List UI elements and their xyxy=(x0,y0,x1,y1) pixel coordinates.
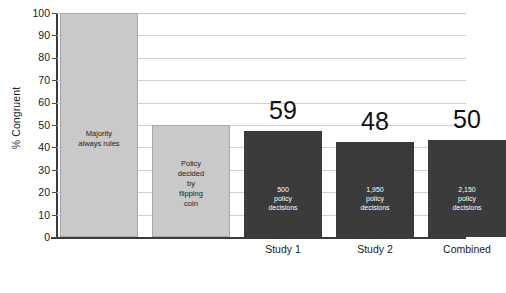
cat-label-study-2: Study 2 xyxy=(336,243,414,255)
tickmark-100 xyxy=(52,13,57,14)
y-tick-100: 100 xyxy=(22,8,50,19)
bar-coin-label-line3: by xyxy=(153,179,229,189)
y-tick-50: 50 xyxy=(22,120,50,131)
y-axis-title: % Congruent xyxy=(10,58,22,178)
tickmark-10 xyxy=(52,215,57,216)
y-tick-90: 90 xyxy=(22,30,50,41)
y-tick-0: 0 xyxy=(22,232,50,243)
tickmark-90 xyxy=(52,35,57,36)
bar-combined-label-line2: policy xyxy=(428,194,506,203)
tickmark-30 xyxy=(52,170,57,171)
cat-label-study-1: Study 1 xyxy=(244,243,322,255)
y-tick-10: 10 xyxy=(22,210,50,221)
bar-combined-value: 50 xyxy=(428,107,506,132)
tickmark-70 xyxy=(52,80,57,81)
tickmark-60 xyxy=(52,103,57,104)
cat-label-combined: Combined xyxy=(428,243,506,255)
bar-combined[interactable]: 50 2,150 policy decisions xyxy=(428,140,506,237)
y-tick-60: 60 xyxy=(22,97,50,108)
y-tick-80: 80 xyxy=(22,52,50,63)
bar-majority-always-rules[interactable]: Majority always rules xyxy=(60,13,138,237)
bar-combined-label-line3: decisions xyxy=(428,203,506,212)
bar-study-2-label-line1: 1,950 xyxy=(336,185,414,194)
bar-study-2[interactable]: 48 1,950 policy decisions xyxy=(336,142,414,237)
bar-study-1-label-line1: 500 xyxy=(244,185,322,194)
tickmark-0 xyxy=(52,237,57,238)
bar-majority-label-line2: always rules xyxy=(61,139,137,149)
tickmark-40 xyxy=(52,147,57,148)
tickmark-80 xyxy=(52,58,57,59)
bar-study-2-label-line3: decisions xyxy=(336,203,414,212)
tickmark-50 xyxy=(52,125,57,126)
bar-study-2-label-line2: policy xyxy=(336,194,414,203)
y-tick-70: 70 xyxy=(22,75,50,86)
bar-study-2-value: 48 xyxy=(336,109,414,134)
bar-majority-label-line1: Majority xyxy=(61,129,137,139)
bar-study-1-label-line2: policy xyxy=(244,194,322,203)
y-axis-tick-labels: 100 90 80 70 60 50 40 30 20 10 0 xyxy=(22,0,50,293)
x-axis-line xyxy=(51,237,466,239)
y-tick-30: 30 xyxy=(22,165,50,176)
bar-study-1-label-line3: decisions xyxy=(244,203,322,212)
bar-study-1-value: 59 xyxy=(244,98,322,123)
plot-area: Majority always rules Policy decided by … xyxy=(57,13,466,237)
bar-coin-label-line2: decided xyxy=(153,169,229,179)
tickmark-20 xyxy=(52,192,57,193)
bar-coin-label-line4: flipping xyxy=(153,189,229,199)
bar-study-1[interactable]: 59 500 policy decisions xyxy=(244,131,322,237)
y-tick-40: 40 xyxy=(22,142,50,153)
bar-coin-flip[interactable]: Policy decided by flipping coin xyxy=(152,125,230,237)
y-tick-20: 20 xyxy=(22,187,50,198)
x-axis-category-labels: Study 1 Study 2 Combined xyxy=(57,243,466,265)
bar-coin-label-line5: coin xyxy=(153,199,229,209)
bar-combined-label-line1: 2,150 xyxy=(428,185,506,194)
bar-coin-label-line1: Policy xyxy=(153,159,229,169)
